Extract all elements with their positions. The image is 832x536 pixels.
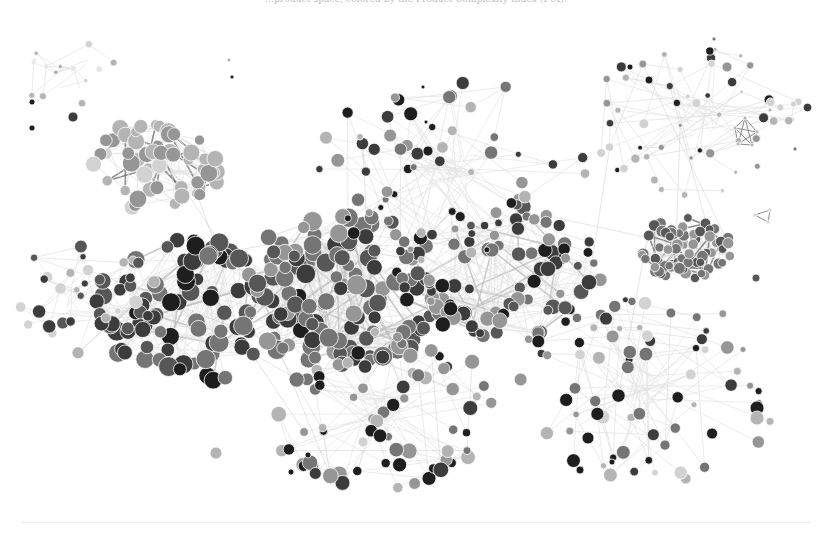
product-node[interactable] (409, 478, 421, 490)
product-node[interactable] (733, 367, 741, 375)
product-node[interactable] (467, 221, 476, 230)
product-node[interactable] (572, 313, 581, 322)
product-node[interactable] (54, 70, 59, 75)
product-node[interactable] (597, 148, 606, 157)
product-node[interactable] (567, 454, 581, 468)
product-node[interactable] (245, 306, 257, 318)
product-node[interactable] (393, 482, 403, 492)
product-node[interactable] (540, 216, 552, 228)
product-node[interactable] (117, 345, 132, 360)
product-node[interactable] (543, 351, 552, 360)
product-node[interactable] (330, 224, 348, 242)
product-node[interactable] (685, 94, 690, 99)
product-node[interactable] (418, 256, 425, 263)
product-node[interactable] (429, 123, 436, 130)
product-node[interactable] (543, 305, 553, 315)
product-node[interactable] (303, 236, 322, 255)
product-node[interactable] (190, 320, 207, 337)
product-node[interactable] (540, 427, 553, 440)
product-node[interactable] (650, 262, 659, 271)
product-node[interactable] (361, 167, 370, 176)
product-node[interactable] (462, 429, 470, 437)
product-node[interactable] (331, 153, 345, 167)
product-node[interactable] (300, 428, 309, 437)
product-node[interactable] (465, 354, 480, 369)
product-node[interactable] (410, 164, 417, 171)
product-node[interactable] (633, 407, 646, 420)
product-node[interactable] (511, 247, 525, 261)
product-node[interactable] (727, 77, 736, 86)
product-node[interactable] (706, 149, 715, 158)
product-node[interactable] (573, 411, 580, 418)
product-node[interactable] (399, 282, 410, 293)
product-node[interactable] (29, 92, 35, 98)
product-node[interactable] (24, 320, 33, 329)
product-node[interactable] (102, 176, 112, 186)
product-node[interactable] (752, 274, 760, 282)
product-node[interactable] (358, 383, 369, 394)
product-node[interactable] (685, 369, 696, 380)
product-node[interactable] (658, 144, 664, 150)
product-node[interactable] (347, 227, 360, 240)
product-node[interactable] (663, 245, 673, 255)
product-node[interactable] (173, 363, 186, 376)
product-node[interactable] (791, 101, 797, 107)
product-node[interactable] (548, 160, 557, 169)
product-node[interactable] (66, 268, 75, 277)
product-node[interactable] (393, 332, 403, 342)
product-node[interactable] (666, 83, 673, 90)
product-node[interactable] (143, 311, 154, 322)
product-node[interactable] (218, 370, 233, 385)
product-node[interactable] (766, 220, 770, 224)
product-node[interactable] (566, 427, 574, 435)
product-node[interactable] (75, 240, 88, 253)
product-node[interactable] (508, 301, 519, 312)
product-node[interactable] (542, 233, 555, 246)
product-node[interactable] (435, 278, 450, 293)
product-node[interactable] (468, 230, 476, 238)
product-node[interactable] (665, 232, 674, 241)
product-node[interactable] (416, 228, 426, 238)
product-node[interactable] (183, 144, 200, 161)
product-node[interactable] (793, 147, 797, 151)
product-node[interactable] (129, 190, 147, 208)
product-node[interactable] (342, 357, 353, 368)
product-node[interactable] (368, 143, 380, 155)
product-node[interactable] (404, 107, 418, 121)
product-node[interactable] (334, 281, 348, 295)
product-node[interactable] (733, 126, 737, 130)
product-node[interactable] (752, 135, 760, 143)
product-node[interactable] (750, 143, 754, 147)
product-node[interactable] (423, 146, 433, 156)
product-node[interactable] (704, 231, 715, 242)
product-node[interactable] (755, 130, 759, 134)
product-node[interactable] (334, 250, 350, 266)
product-node[interactable] (31, 60, 36, 65)
product-node[interactable] (378, 205, 384, 211)
product-node[interactable] (736, 142, 740, 146)
product-node[interactable] (122, 147, 135, 160)
product-node[interactable] (207, 150, 224, 167)
product-node[interactable] (456, 76, 469, 89)
product-node[interactable] (766, 417, 774, 425)
product-node[interactable] (133, 257, 144, 268)
product-node[interactable] (202, 289, 219, 306)
product-node[interactable] (777, 104, 784, 111)
product-node[interactable] (148, 276, 160, 288)
product-node[interactable] (754, 163, 760, 169)
product-node[interactable] (609, 300, 621, 312)
product-node[interactable] (631, 154, 640, 163)
product-node[interactable] (96, 66, 103, 73)
product-node[interactable] (381, 186, 393, 198)
product-node[interactable] (740, 90, 744, 94)
product-node[interactable] (121, 322, 134, 335)
product-node[interactable] (83, 264, 94, 275)
product-node[interactable] (424, 344, 438, 358)
product-node[interactable] (417, 321, 431, 335)
product-node[interactable] (490, 207, 502, 219)
product-node[interactable] (666, 308, 676, 318)
product-node[interactable] (514, 373, 527, 386)
product-node[interactable] (606, 143, 614, 151)
product-node[interactable] (652, 470, 659, 477)
product-node[interactable] (448, 238, 460, 250)
